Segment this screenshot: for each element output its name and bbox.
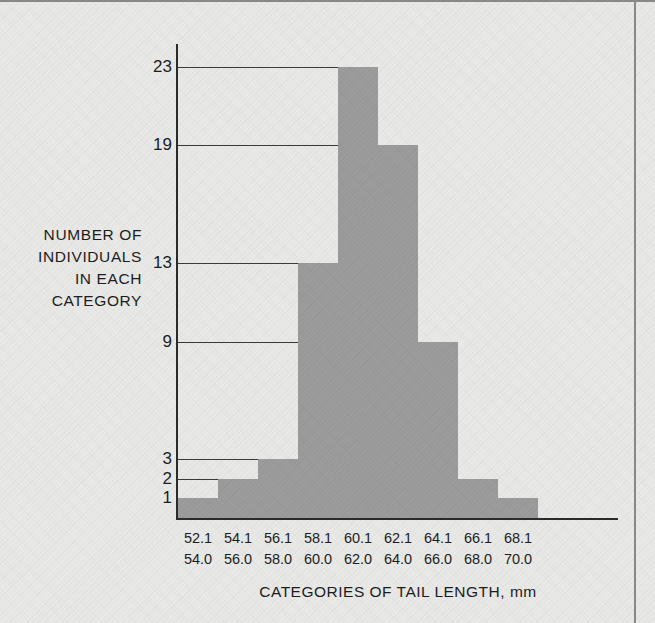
y-tick-label-9: 9 bbox=[138, 333, 172, 350]
y-axis-title-line-1: NUMBER OF bbox=[14, 224, 142, 246]
histogram-bar bbox=[498, 498, 538, 518]
x-tick-upper-4: 62.0 bbox=[338, 549, 378, 569]
x-tick-upper-1: 56.0 bbox=[218, 549, 258, 569]
gridline-23 bbox=[178, 67, 338, 68]
histogram-bar bbox=[458, 479, 498, 518]
page-right-border bbox=[634, 0, 636, 623]
x-tick-upper-7: 68.0 bbox=[458, 549, 498, 569]
y-tick-label-3: 3 bbox=[138, 450, 172, 467]
x-tick-lower-2: 56.1 bbox=[258, 528, 298, 548]
y-tick-label-2: 2 bbox=[138, 470, 172, 487]
x-tick-lower-3: 58.1 bbox=[298, 528, 338, 548]
x-tick-lower-4: 60.1 bbox=[338, 528, 378, 548]
x-tick-upper-3: 60.0 bbox=[298, 549, 338, 569]
histogram-bar bbox=[178, 498, 218, 518]
x-tick-upper-5: 64.0 bbox=[378, 549, 418, 569]
gridline-3 bbox=[178, 459, 258, 460]
x-axis-line bbox=[176, 518, 618, 520]
x-tick-upper-2: 58.0 bbox=[258, 549, 298, 569]
histogram-bar bbox=[378, 145, 418, 518]
figure-page: NUMBER OF INDIVIDUALS IN EACH CATEGORY 1… bbox=[0, 0, 655, 623]
page-top-border bbox=[0, 0, 655, 2]
x-tick-lower-8: 68.1 bbox=[498, 528, 538, 548]
x-tick-lower-7: 66.1 bbox=[458, 528, 498, 548]
y-axis-title-line-4: CATEGORY bbox=[14, 290, 142, 312]
y-tick-label-19: 19 bbox=[138, 136, 172, 153]
histogram-bar bbox=[338, 67, 378, 518]
x-tick-lower-5: 62.1 bbox=[378, 528, 418, 548]
histogram-bar bbox=[418, 342, 458, 518]
histogram-bar bbox=[218, 479, 258, 518]
x-axis-title: CATEGORIES OF TAIL LENGTH, mm bbox=[178, 583, 618, 601]
x-tick-upper-8: 70.0 bbox=[498, 549, 538, 569]
gridline-2 bbox=[178, 479, 218, 480]
histogram-bar bbox=[258, 459, 298, 518]
x-tick-upper-6: 66.0 bbox=[418, 549, 458, 569]
y-axis-title-line-2: INDIVIDUALS bbox=[14, 246, 142, 268]
x-tick-upper-0: 54.0 bbox=[178, 549, 218, 569]
gridline-19 bbox=[178, 145, 338, 146]
x-tick-labels-upper: 54.056.058.060.062.064.066.068.070.0 bbox=[178, 549, 538, 569]
x-tick-lower-6: 64.1 bbox=[418, 528, 458, 548]
y-axis-title-line-3: IN EACH bbox=[14, 268, 142, 290]
x-tick-lower-0: 52.1 bbox=[178, 528, 218, 548]
y-axis-title: NUMBER OF INDIVIDUALS IN EACH CATEGORY bbox=[14, 224, 142, 312]
x-tick-lower-1: 54.1 bbox=[218, 528, 258, 548]
y-tick-label-13: 13 bbox=[138, 254, 172, 271]
y-tick-label-23: 23 bbox=[138, 58, 172, 75]
gridline-9 bbox=[178, 342, 298, 343]
y-tick-label-1: 1 bbox=[138, 489, 172, 506]
histogram-bar bbox=[298, 263, 338, 518]
y-axis-line bbox=[176, 44, 178, 520]
gridline-13 bbox=[178, 263, 298, 264]
x-tick-labels-lower: 52.154.156.158.160.162.164.166.168.1 bbox=[178, 528, 538, 548]
histogram-plot: NUMBER OF INDIVIDUALS IN EACH CATEGORY 1… bbox=[0, 0, 655, 623]
